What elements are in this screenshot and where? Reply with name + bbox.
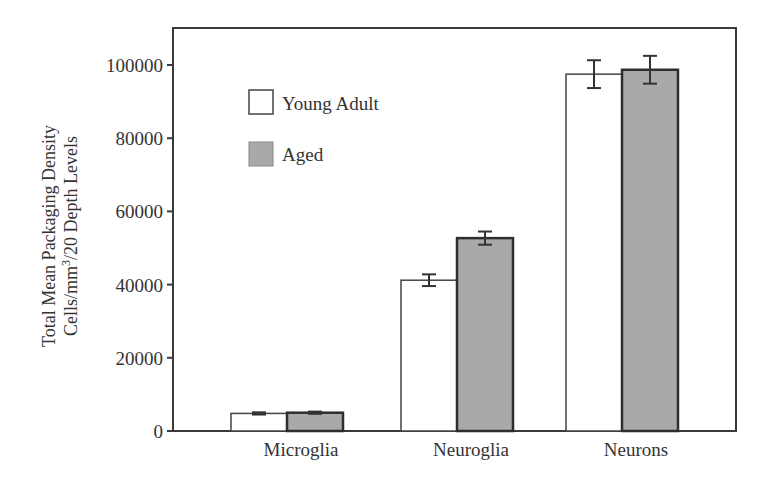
- y-tick-label: 60000: [116, 201, 164, 222]
- y-tick-label: 40000: [116, 275, 164, 296]
- x-category-label: Microglia: [264, 439, 339, 460]
- x-category-label: Neuroglia: [433, 439, 510, 460]
- y-axis: 020000400006000080000100000: [106, 55, 173, 442]
- y-axis-title: Total Mean Packaging DensityCells/mm3/20…: [39, 125, 81, 347]
- y-axis-title-line1: Total Mean Packaging Density: [39, 125, 59, 347]
- x-axis-labels: MicrogliaNeurogliaNeurons: [264, 439, 669, 460]
- y-tick-label: 80000: [116, 128, 164, 149]
- legend-swatch-young-adult: [249, 90, 273, 114]
- y-axis-title-line2: Cells/mm3/20 Depth Levels: [59, 136, 81, 336]
- x-category-label: Neurons: [604, 439, 668, 460]
- bar-young-adult: [231, 413, 287, 431]
- legend-label-aged: Aged: [282, 144, 324, 165]
- bar-aged: [457, 238, 513, 431]
- legend: Young AdultAged: [249, 90, 380, 166]
- y-tick-label: 0: [154, 421, 164, 442]
- bar-chart: 020000400006000080000100000 MicrogliaNeu…: [0, 0, 772, 484]
- y-tick-label: 20000: [116, 348, 164, 369]
- bar-young-adult: [566, 74, 622, 431]
- bar-aged: [287, 413, 343, 431]
- legend-label-young-adult: Young Adult: [282, 93, 380, 114]
- y-tick-label: 100000: [106, 55, 163, 76]
- bar-young-adult: [401, 280, 457, 431]
- bar-aged: [622, 70, 678, 431]
- legend-swatch-aged: [249, 142, 273, 166]
